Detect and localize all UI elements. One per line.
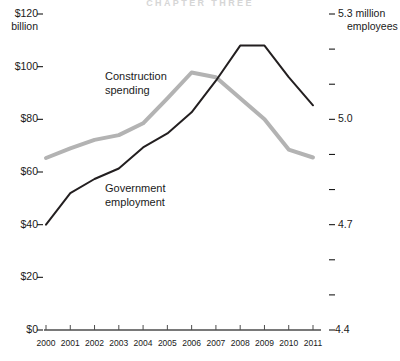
axis-layer (37, 14, 335, 330)
y-right-label-5.0: 5.0 (338, 112, 353, 124)
y-left-label-0: $0 (0, 323, 38, 335)
x-axis-label-2011: 2011 (299, 338, 327, 348)
series-layer (46, 46, 313, 225)
y-right-unit-label: employees (347, 20, 398, 32)
y-right-label-4.4: 4.4 (335, 323, 350, 335)
y-right-label-4.7: 4.7 (338, 218, 353, 230)
y-left-unit-label: billion (0, 20, 38, 32)
y-left-label-20: $20 (0, 270, 38, 282)
y-left-label-120: $120 (0, 7, 38, 19)
chart-plot-area (0, 0, 400, 361)
series-line-construction-spending (46, 73, 313, 159)
y-left-label-80: $80 (0, 112, 38, 124)
series-annotation-construction-spending: Constructionspending (105, 70, 167, 97)
chart-figure: CHAPTER THREE 20002001200220032004200520… (0, 0, 400, 361)
y-left-label-60: $60 (0, 165, 38, 177)
series-annotation-government-employment: Governmentemployment (105, 182, 166, 209)
series-line-government-employment (46, 46, 313, 225)
y-right-label-5.3: 5.3 million (338, 7, 385, 19)
y-left-label-100: $100 (0, 60, 38, 72)
y-left-label-40: $40 (0, 218, 38, 230)
